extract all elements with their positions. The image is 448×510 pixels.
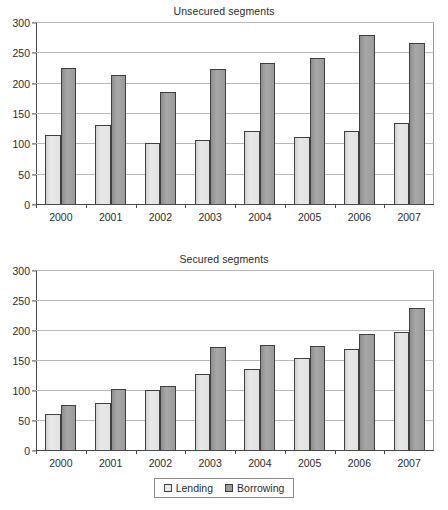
y-tick-label: 100: [12, 138, 30, 150]
bar-group: [285, 22, 335, 204]
bar-pair: [344, 22, 375, 204]
bar-lending-2001[interactable]: [95, 403, 110, 450]
bar-group: [86, 270, 136, 450]
bar-borrowing-2004[interactable]: [260, 63, 275, 204]
bar-lending-2003[interactable]: [195, 374, 210, 450]
bar-borrowing-2002[interactable]: [160, 92, 175, 204]
bar-pair: [244, 270, 275, 450]
bar-group: [335, 22, 385, 204]
bar-borrowing-2006[interactable]: [359, 334, 374, 450]
bar-pair: [294, 22, 325, 204]
bar-borrowing-2001[interactable]: [111, 389, 126, 450]
y-tick-label: 50: [18, 169, 30, 181]
x-tick-label-2007: 2007: [384, 211, 434, 223]
bar-pair: [195, 270, 226, 450]
bar-group: [384, 270, 434, 450]
bar-pair: [145, 270, 176, 450]
bar-borrowing-2005[interactable]: [310, 58, 325, 204]
bar-pair: [394, 22, 425, 204]
x-tick-label-2004: 2004: [235, 457, 285, 469]
bar-series-secured: [36, 270, 434, 450]
bar-pair: [45, 22, 76, 204]
legend-label: Lending: [176, 482, 213, 494]
bar-borrowing-2007[interactable]: [409, 308, 424, 450]
legend-box: LendingBorrowing: [154, 478, 295, 498]
bar-lending-2006[interactable]: [344, 349, 359, 450]
y-tick-label: 300: [12, 265, 30, 277]
chart-legend: LendingBorrowing: [0, 478, 448, 498]
y-tick-label: 50: [18, 415, 30, 427]
y-tick-label: 250: [12, 295, 30, 307]
bar-lending-2004[interactable]: [244, 131, 259, 204]
bar-lending-2007[interactable]: [394, 123, 409, 204]
chart-secured-segments: Secured segments 050100150200250300 2000…: [0, 248, 448, 510]
x-tick-label-2000: 2000: [36, 457, 86, 469]
bar-lending-2006[interactable]: [344, 131, 359, 204]
dark-square-icon: [225, 484, 233, 492]
x-tick-label-2005: 2005: [285, 457, 335, 469]
bar-group: [185, 22, 235, 204]
bar-borrowing-2006[interactable]: [359, 35, 374, 204]
bar-lending-2000[interactable]: [45, 135, 60, 204]
bar-group: [384, 22, 434, 204]
y-tick-label: 150: [12, 108, 30, 120]
x-tick-label-2006: 2006: [335, 211, 385, 223]
x-axis-labels-secured: 20002001200220032004200520062007: [36, 450, 434, 476]
light-square-icon: [164, 484, 172, 492]
y-tick-label: 0: [24, 445, 30, 457]
bar-group: [335, 270, 385, 450]
chart-title-unsecured: Unsecured segments: [0, 0, 448, 22]
bar-borrowing-2001[interactable]: [111, 75, 126, 204]
bar-lending-2000[interactable]: [45, 414, 60, 450]
y-tick-label: 250: [12, 47, 30, 59]
x-tick-label-2006: 2006: [335, 457, 385, 469]
bar-lending-2003[interactable]: [195, 140, 210, 204]
y-tick-label: 100: [12, 385, 30, 397]
x-tick-label-2007: 2007: [384, 457, 434, 469]
bar-group: [235, 22, 285, 204]
y-tick-label: 0: [24, 199, 30, 211]
bar-borrowing-2007[interactable]: [409, 43, 424, 204]
bar-group: [285, 270, 335, 450]
bar-lending-2002[interactable]: [145, 390, 160, 450]
bar-lending-2005[interactable]: [294, 358, 309, 450]
x-tick-label-2001: 2001: [86, 211, 136, 223]
bar-pair: [95, 270, 126, 450]
bar-group: [36, 270, 86, 450]
bar-borrowing-2002[interactable]: [160, 386, 175, 450]
chart-title-secured: Secured segments: [0, 248, 448, 270]
bar-group: [235, 270, 285, 450]
bar-borrowing-2005[interactable]: [310, 346, 325, 450]
bar-group: [136, 270, 186, 450]
x-tick-label-2002: 2002: [136, 457, 186, 469]
legend-item-borrowing[interactable]: Borrowing: [225, 482, 284, 494]
bar-lending-2004[interactable]: [244, 369, 259, 450]
x-tick-label-2003: 2003: [185, 457, 235, 469]
bar-borrowing-2003[interactable]: [210, 347, 225, 450]
y-tick-label: 300: [12, 17, 30, 29]
bar-group: [136, 22, 186, 204]
bar-lending-2002[interactable]: [145, 143, 160, 204]
bar-lending-2005[interactable]: [294, 137, 309, 204]
bar-borrowing-2000[interactable]: [61, 68, 76, 205]
bar-pair: [195, 22, 226, 204]
bar-lending-2001[interactable]: [95, 125, 110, 204]
bar-lending-2007[interactable]: [394, 332, 409, 450]
bar-group: [185, 270, 235, 450]
legend-item-lending[interactable]: Lending: [164, 482, 213, 494]
x-tick-label-2001: 2001: [86, 457, 136, 469]
bar-series-unsecured: [36, 22, 434, 204]
bar-pair: [294, 270, 325, 450]
bar-borrowing-2004[interactable]: [260, 345, 275, 450]
bar-group: [86, 22, 136, 204]
bar-pair: [394, 270, 425, 450]
bar-group: [36, 22, 86, 204]
bar-borrowing-2003[interactable]: [210, 69, 225, 204]
bar-borrowing-2000[interactable]: [61, 405, 76, 450]
x-axis-labels-unsecured: 20002001200220032004200520062007: [36, 204, 434, 230]
bar-pair: [344, 270, 375, 450]
chart-unsecured-segments: Unsecured segments 050100150200250300 20…: [0, 0, 448, 248]
x-tick-label-2000: 2000: [36, 211, 86, 223]
y-tick-label: 200: [12, 78, 30, 90]
y-tick-label: 150: [12, 355, 30, 367]
